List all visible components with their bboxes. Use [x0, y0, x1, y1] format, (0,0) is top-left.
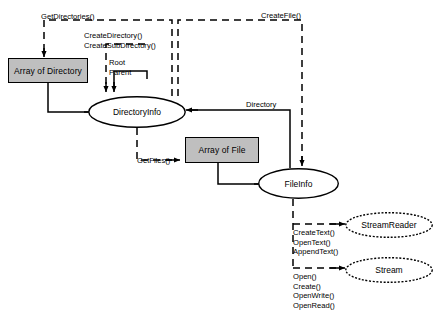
- edge-label-root-parent: Root Parent: [109, 58, 131, 77]
- node-label: Array of Directory: [14, 66, 82, 76]
- node-directoryinfo[interactable]: DirectoryInfo: [88, 96, 186, 128]
- edge-label-get-files: GetFiles(): [137, 156, 170, 165]
- node-array-of-file[interactable]: Array of File: [185, 137, 259, 163]
- edge-label-stream-methods: Open() Create() OpenWrite() OpenRead(): [293, 272, 335, 310]
- edge-label-text-methods: CreateText() OpenText() AppendText(): [293, 228, 338, 257]
- node-stream[interactable]: Stream: [345, 257, 433, 283]
- edge-label-create-file: CreateFile(): [261, 11, 301, 20]
- node-label: StreamReader: [361, 220, 416, 230]
- edge-label-get-directories: GetDirectories(): [41, 12, 95, 21]
- node-streamreader[interactable]: StreamReader: [345, 212, 433, 238]
- node-label: DirectoryInfo: [113, 107, 161, 117]
- edge-label-create-directory: CreateDirectory() CreateSubDirectory(): [84, 31, 156, 50]
- node-label: FileInfo: [285, 179, 313, 189]
- edge-label-directory: Directory: [246, 100, 276, 109]
- node-label: Stream: [375, 265, 402, 275]
- node-label: Array of File: [198, 145, 245, 155]
- node-array-of-directory[interactable]: Array of Directory: [8, 58, 88, 83]
- diagram-canvas: Array of Directory DirectoryInfo Array o…: [0, 0, 441, 318]
- node-fileinfo[interactable]: FileInfo: [258, 168, 339, 199]
